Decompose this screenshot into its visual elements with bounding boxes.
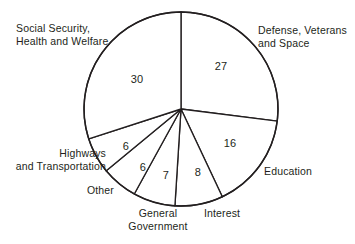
pie-slice-value: 7: [163, 169, 169, 181]
pie-slice-label: Other: [87, 184, 114, 197]
pie-slice-label-line2: and Space: [258, 37, 347, 50]
pie-slice-label-line1: Interest: [204, 207, 240, 219]
pie-slice-label-line1: Education: [264, 165, 312, 177]
pie-slice-value: 6: [123, 140, 129, 152]
pie-slice-label: Highwaysand Transportation: [16, 147, 106, 174]
pie-slice-label-line1: General: [139, 207, 177, 219]
pie-slice-label-line1: Highways: [59, 147, 106, 159]
pie-slice-label: Social Security,Health and Welfare: [16, 22, 108, 49]
pie-slice-value: 27: [215, 60, 228, 72]
pie-slice-value: 6: [140, 161, 146, 173]
pie-slice-label-line1: Other: [87, 184, 114, 196]
pie-slice-label-line2: Government: [128, 220, 187, 233]
pie-slice-value: 30: [131, 73, 144, 85]
pie-slice-label: Interest: [204, 207, 240, 220]
pie-slice-label-line2: and Transportation: [16, 160, 106, 173]
pie-slice-value: 8: [195, 166, 201, 178]
pie-slice-label-line1: Defense, Veterans: [258, 24, 347, 36]
pie-slice-value: 16: [224, 137, 237, 149]
pie-slice-label: Defense, Veteransand Space: [258, 24, 347, 51]
pie-slices-group: [84, 12, 278, 206]
pie-slice-label: GeneralGovernment: [128, 207, 187, 234]
pie-chart: 2716876630 Defense, Veteransand SpaceEdu…: [0, 0, 355, 244]
pie-slice-label: Education: [264, 165, 312, 178]
pie-slice-label-line1: Social Security,: [16, 22, 90, 34]
pie-slice-label-line2: Health and Welfare: [16, 35, 108, 48]
